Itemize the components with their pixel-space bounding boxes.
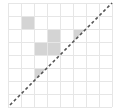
grid-diagram (0, 0, 121, 110)
shaded-cell (34, 42, 47, 55)
shaded-cell (47, 42, 60, 55)
shaded-cells (21, 16, 86, 81)
shaded-cell (21, 16, 34, 29)
shaded-cell (47, 29, 60, 42)
